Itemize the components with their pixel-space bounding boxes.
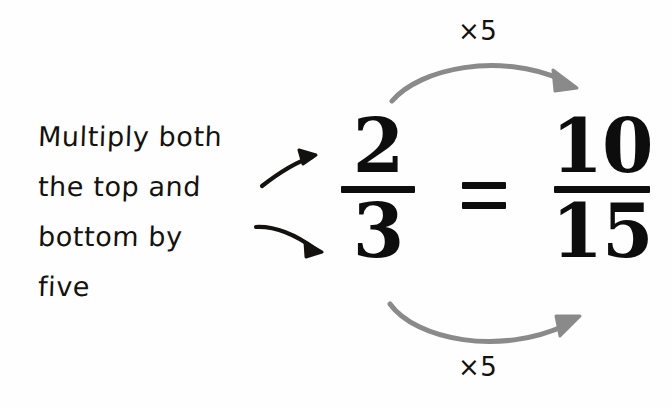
bottom-multiplier-label: ×5 [458,352,497,382]
instruction-line-3: bottom by [37,212,279,262]
instruction-line-2: the top and [37,162,279,212]
equals-bar-bottom [462,202,506,209]
top-multiplier-label: ×5 [458,16,497,46]
worksheet-canvas: Multiply both the top and bottom by five… [0,0,672,408]
equals-bar-top [462,182,506,189]
right-fraction-denominator: 15 [548,197,656,265]
numerator-multiply-arc-icon [392,66,577,101]
right-fraction-numerator: 10 [548,112,656,180]
left-fraction-numerator: 2 [330,112,426,180]
instruction-text: Multiply both the top and bottom by five [38,112,278,312]
equals-sign [462,182,508,209]
instruction-line-1: Multiply both [37,112,279,162]
denominator-multiply-arc-icon [390,304,580,341]
instruction-line-4: five [37,262,279,312]
left-fraction: 2 3 [330,112,426,265]
right-fraction: 10 15 [548,112,656,265]
left-fraction-denominator: 3 [330,197,426,265]
